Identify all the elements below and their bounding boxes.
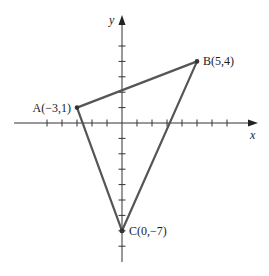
label-a: A(−3,1) — [33, 101, 71, 115]
y-axis-arrow-icon — [119, 15, 126, 25]
triangle-abc — [77, 61, 197, 230]
point-b — [195, 59, 200, 64]
point-a — [75, 105, 80, 110]
label-b: B(5,4) — [203, 54, 234, 68]
point-c — [120, 228, 125, 233]
x-axis-arrow-icon — [248, 120, 258, 127]
axis-ticks — [47, 46, 227, 246]
y-axis-label: y — [108, 13, 115, 27]
x-axis-label: x — [249, 128, 256, 142]
coordinate-diagram: x y A(−3,1) B(5,4) C(0,−7) — [0, 0, 269, 276]
diagram-canvas: x y A(−3,1) B(5,4) C(0,−7) — [0, 0, 269, 276]
label-c: C(0,−7) — [129, 224, 167, 238]
